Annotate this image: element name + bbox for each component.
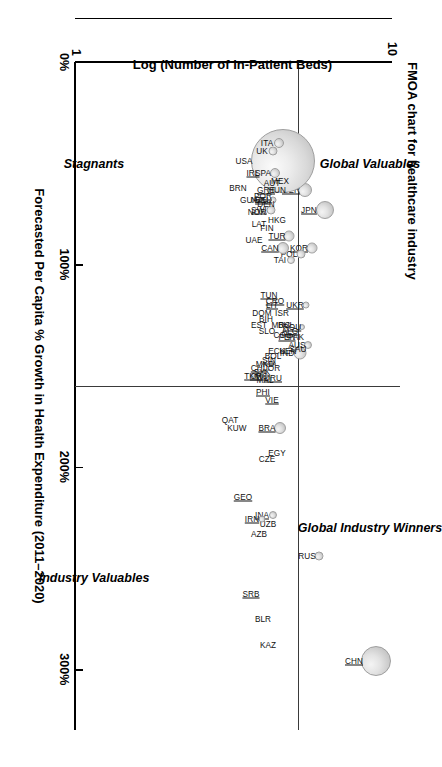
data-point-label: IRL <box>247 169 260 178</box>
data-point-label: NOR <box>248 207 267 216</box>
data-point-label: JPN <box>301 205 317 214</box>
data-point-label: CHN <box>345 657 363 666</box>
data-point-label: KUW <box>227 424 246 433</box>
data-bubble <box>274 422 286 434</box>
data-point-label: PHI <box>256 387 270 396</box>
x-axis-title: Forecasted Per Capita % Growth in Health… <box>32 62 47 730</box>
quadrant-label-industry-valuables: Industry Valuables <box>39 571 150 585</box>
x-axis-tick <box>76 264 83 265</box>
x-axis-tick <box>76 669 83 670</box>
x-axis-tick-label: 200% <box>57 451 71 483</box>
data-bubble <box>361 646 391 676</box>
data-point-label: BRA <box>259 424 276 433</box>
data-point-label: CAN <box>261 244 279 253</box>
y-axis-tick-label: 10 <box>385 40 399 56</box>
data-point-label: UAE <box>246 236 263 245</box>
data-bubble <box>269 147 278 156</box>
x-axis-tick-label: 300% <box>57 653 71 685</box>
data-point-label: UK <box>256 147 268 156</box>
data-point-label: UKR <box>287 300 305 309</box>
data-point-label: EST <box>250 321 266 330</box>
data-point-label: BLR <box>255 614 271 623</box>
data-point-label: TAI <box>274 256 286 265</box>
x-axis-tick <box>76 467 83 468</box>
data-bubble <box>270 168 280 178</box>
data-point-label: CRC <box>250 371 268 380</box>
data-point-label: CZE <box>259 454 276 463</box>
data-point-label: GUA <box>240 195 258 204</box>
outer-frame-line <box>75 18 392 19</box>
data-point-label: DOM <box>252 309 271 318</box>
data-point-label: COL <box>274 331 291 340</box>
data-point-label: LAT <box>252 219 267 228</box>
data-bubble <box>269 511 277 519</box>
data-point-label: QAT <box>222 416 239 425</box>
data-point-label: MKD <box>256 359 275 368</box>
quadrant-label-stagnants: Stagnants <box>64 157 124 171</box>
data-point-label: ISR <box>275 309 289 318</box>
data-point-label: USA <box>236 157 253 166</box>
data-point-label: AZB <box>251 529 267 538</box>
data-point-label: RUS <box>299 551 317 560</box>
quadrant-label-global-industry-winners: Global Industry Winners <box>298 521 442 535</box>
y-axis-title: Log (Number of In-Patient Beds) <box>73 57 393 72</box>
data-point-label: GEO <box>234 493 253 502</box>
data-point-label: TUN <box>261 290 278 299</box>
quadrant-vertical-divider <box>75 386 400 387</box>
data-point-label: KAZ <box>260 640 276 649</box>
x-axis-tick-label: 100% <box>57 248 71 280</box>
data-point-label: VIE <box>265 396 279 405</box>
data-bubble <box>316 201 334 219</box>
data-bubble <box>277 242 289 254</box>
data-point-label: BRN <box>229 183 247 192</box>
data-bubble <box>287 256 295 264</box>
data-bubble <box>306 243 317 254</box>
y-axis-tick-label: 1 <box>69 40 83 56</box>
quadrant-label-global-valuables: Global Valuables <box>320 157 420 171</box>
data-point-label: SRB <box>242 590 259 599</box>
data-bubble <box>284 231 295 242</box>
data-bubble <box>259 516 266 523</box>
data-point-label: TUR <box>268 232 285 241</box>
data-point-label: IRN <box>244 515 258 524</box>
